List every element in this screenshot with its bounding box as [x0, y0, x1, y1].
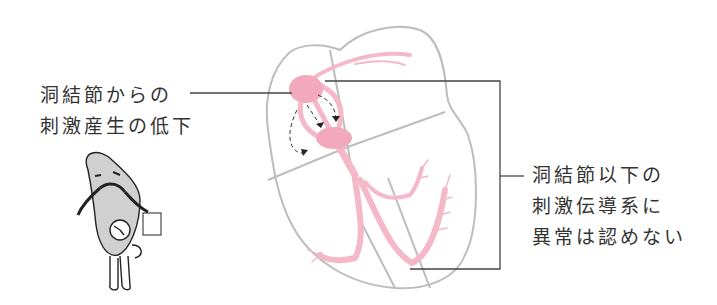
annotation-line: 洞結節からの — [40, 80, 194, 111]
sinus-node — [289, 75, 323, 103]
annotation-line: 刺激産生の低下 — [40, 111, 194, 142]
annotation-line: 異常は認めない — [532, 222, 686, 253]
conduction-system — [300, 54, 452, 263]
mascot-character — [78, 153, 161, 290]
heart-diagram — [0, 0, 717, 305]
heart-outline — [267, 27, 476, 288]
av-node — [316, 127, 352, 149]
annotation-line: 刺激伝導系に — [532, 191, 686, 222]
conduction-system-annotation: 洞結節以下の 刺激伝導系に 異常は認めない — [532, 160, 686, 253]
annotation-line: 洞結節以下の — [532, 160, 686, 191]
diagram-canvas: 洞結節からの 刺激産生の低下 洞結節以下の 刺激伝導系に 異常は認めない — [0, 0, 717, 305]
sinus-node-annotation: 洞結節からの 刺激産生の低下 — [40, 80, 194, 142]
